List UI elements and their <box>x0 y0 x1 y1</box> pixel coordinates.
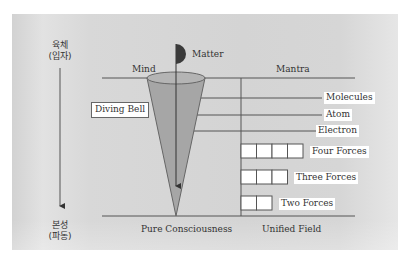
mind-header: Mind <box>132 65 156 74</box>
three-forces-label: Three Forces <box>294 172 358 184</box>
four-forces-cell <box>241 144 257 158</box>
two-forces-label: Two Forces <box>279 198 335 210</box>
left-axis-bottom-label: 본성 (파동) <box>44 220 76 243</box>
three-forces-cell <box>257 170 273 184</box>
left-axis-bottom-label-line2: (파동) <box>44 231 76 242</box>
two-forces-cell <box>257 196 273 210</box>
four-forces-cell <box>288 144 304 158</box>
left-axis-top-label: 육체 (입자) <box>44 40 76 63</box>
four-forces-cell <box>257 144 273 158</box>
atom-label: Atom <box>324 109 352 121</box>
four-forces-cell <box>272 144 288 158</box>
three-forces-cell <box>241 170 257 184</box>
left-axis-top-label-line2: (입자) <box>44 51 76 62</box>
molecules-label: Molecules <box>324 92 375 104</box>
electron-label: Electron <box>316 125 359 137</box>
pure-consciousness-label: Pure Consciousness <box>141 225 232 234</box>
diving-bell-label: Diving Bell <box>91 102 149 118</box>
three-forces-cell <box>272 170 288 184</box>
matter-half-disc-icon <box>176 44 186 64</box>
unified-field-label: Unified Field <box>262 225 321 234</box>
mantra-header: Mantra <box>276 65 310 74</box>
left-axis-bottom-label-line1: 본성 <box>44 220 76 231</box>
two-forces-cell <box>241 196 257 210</box>
matter-label: Matter <box>192 50 223 59</box>
left-axis-top-label-line1: 육체 <box>44 40 76 51</box>
four-forces-label: Four Forces <box>310 146 369 158</box>
